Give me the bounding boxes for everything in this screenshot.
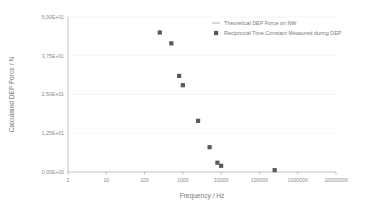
data-point: [169, 41, 173, 45]
x-tick-label-5: 100000: [251, 177, 268, 183]
y-tick-label-1: 1,25E+01: [42, 130, 64, 136]
scatter-chart: 0,00E+001,25E+012,50E+013,75E+015,00E+01…: [0, 0, 378, 211]
x-tick-label-6: 1000000: [288, 177, 308, 183]
y-axis-title: Calculated DEP Force / N: [8, 57, 15, 133]
data-point: [177, 74, 181, 78]
y-tick-label-0: 0,00E+00: [42, 169, 64, 175]
x-tick-label-7: 10000000: [324, 177, 347, 183]
x-tick-label-0: 1: [67, 177, 70, 183]
data-point: [208, 145, 212, 149]
data-point: [196, 119, 200, 123]
y-tick-label-4: 5,00E+01: [42, 14, 64, 20]
x-tick-label-3: 1000: [177, 177, 189, 183]
chart-container: 0,00E+001,25E+012,50E+013,75E+015,00E+01…: [0, 0, 378, 211]
legend-square-marker: [214, 31, 218, 35]
x-tick-label-1: 10: [103, 177, 109, 183]
data-point: [215, 161, 219, 165]
y-tick-label-2: 2,50E+01: [42, 91, 64, 97]
data-point: [158, 30, 162, 34]
x-tick-label-4: 10000: [214, 177, 229, 183]
data-point: [273, 168, 277, 172]
data-point: [219, 164, 223, 168]
x-axis-title: Frequency / Hz: [180, 192, 225, 200]
x-tick-label-2: 100: [140, 177, 149, 183]
legend-label-0: Theoretical DEP Force on NW: [224, 20, 297, 26]
y-tick-label-3: 3,75E+01: [42, 53, 64, 59]
data-point: [181, 83, 185, 87]
legend-label-1: Reciprocial Time Constant Measured durin…: [224, 30, 342, 36]
